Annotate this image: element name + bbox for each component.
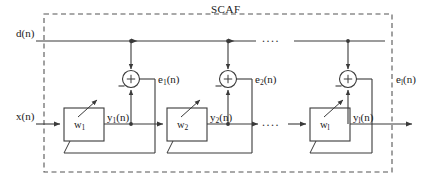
label-output-y1: y1(n) <box>107 112 129 123</box>
label-weight-w2: w2 <box>177 120 188 131</box>
label-error-el: el(n) <box>396 74 416 85</box>
label-output-y2: y2(n) <box>210 112 232 123</box>
label-desired-signal: d(n) <box>16 28 34 39</box>
weight-sub-1: 1 <box>82 123 86 132</box>
error-sub-2: 2 <box>260 78 264 87</box>
label-error-e2: e2(n) <box>255 74 276 85</box>
weight-base-2: w <box>177 119 185 130</box>
error-suffix-l: (n) <box>403 73 416 85</box>
output-suffix-l: (n) <box>361 111 374 123</box>
weight-base-l: w <box>320 119 328 130</box>
label-output-yl: yl(n) <box>353 112 373 123</box>
error-sub-l: l <box>401 78 403 87</box>
output-sub-2: 2 <box>216 116 220 125</box>
desired-signal-drops <box>131 41 348 69</box>
weight-base-1: w <box>74 119 82 130</box>
desired-signal-bus <box>36 38 385 43</box>
error-suffix-2: (n) <box>264 73 277 85</box>
weight-sub-2: 2 <box>185 123 189 132</box>
weight-sub-l: l <box>328 123 330 132</box>
output-suffix-1: (n) <box>116 111 129 123</box>
label-weight-w1: w1 <box>74 120 85 131</box>
figure-title: SCAF <box>211 4 241 15</box>
label-error-e1: e1(n) <box>158 74 179 85</box>
scaf-block-diagram <box>0 0 436 184</box>
scaf-boundary <box>44 14 392 172</box>
output-base-1: y <box>107 111 113 123</box>
label-input-signal: x(n) <box>16 111 34 122</box>
figure-canvas: SCAF d(n) x(n) w1 y1(n) e1(n) w2 y2(n) e… <box>0 0 436 184</box>
output-sub-l: l <box>359 116 361 125</box>
ellipsis-bottom: .... <box>262 116 280 128</box>
output-suffix-2: (n) <box>219 111 232 123</box>
label-weight-wl: wl <box>320 120 330 131</box>
ellipsis-top: .... <box>262 32 280 44</box>
output-base-l: y <box>353 111 359 123</box>
output-base-2: y <box>210 111 216 123</box>
error-suffix-1: (n) <box>167 73 180 85</box>
output-sub-1: 1 <box>113 116 117 125</box>
error-sub-1: 1 <box>163 78 167 87</box>
